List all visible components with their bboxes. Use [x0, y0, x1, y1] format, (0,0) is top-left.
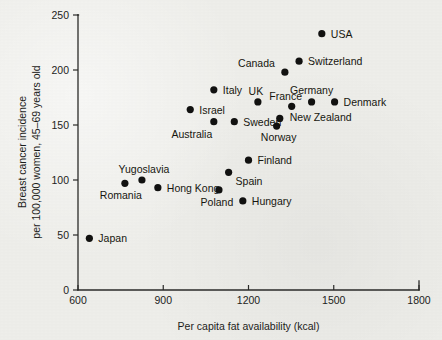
point-label-uk: UK [249, 85, 264, 97]
plot-canvas: 050100150200250600900120015001800 JapanR… [0, 0, 442, 340]
point-marker [318, 30, 325, 37]
data-point: Hungary [239, 195, 292, 207]
data-point: Spain [225, 169, 263, 188]
point-marker [308, 98, 315, 105]
point-label-poland: Poland [201, 196, 234, 208]
data-points-layer: JapanRomaniaYugoslaviaHong KongPolandHun… [86, 28, 387, 245]
data-point: Switzerland [295, 55, 362, 67]
point-label-usa: USA [331, 28, 353, 40]
point-marker [245, 157, 252, 164]
data-point: Hong Kong [154, 182, 219, 194]
data-point: Japan [86, 232, 127, 244]
data-point: Finland [245, 154, 292, 166]
y-tick-label: 100 [51, 174, 69, 186]
point-marker [254, 98, 261, 105]
point-marker [210, 118, 217, 125]
point-marker [187, 106, 194, 113]
data-point: Romania [100, 180, 142, 202]
point-label-italy: Italy [223, 84, 243, 96]
point-marker [154, 184, 161, 191]
point-marker [295, 58, 302, 65]
y-axis-title-line2: per 100,000 women, 45–69 years old [30, 65, 42, 239]
point-marker [288, 103, 295, 110]
point-marker [331, 98, 338, 105]
data-point: Italy [210, 84, 243, 96]
point-label-germany: Germany [290, 84, 334, 96]
x-tick-label: 600 [69, 294, 87, 306]
data-point: Israel [187, 104, 225, 116]
point-marker [281, 69, 288, 76]
point-label-denmark: Denmark [344, 96, 387, 108]
point-marker [86, 235, 93, 242]
point-marker [225, 169, 232, 176]
point-marker [210, 86, 217, 93]
point-label-yugoslavia: Yugoslavia [119, 163, 170, 175]
point-label-norway: Norway [261, 131, 297, 143]
x-axis-title: Per capita fat availability (kcal) [178, 320, 320, 332]
y-tick-label: 50 [57, 229, 69, 241]
data-point: UK [249, 85, 264, 106]
point-marker [121, 180, 128, 187]
y-axis-title-line1: Breast cancer incidence [16, 96, 28, 208]
data-point: USA [318, 28, 352, 40]
data-point: Denmark [331, 96, 387, 108]
point-marker [273, 123, 280, 130]
point-label-switzerland: Switzerland [308, 55, 362, 67]
y-tick-label: 200 [51, 64, 69, 76]
scatter-plot-figure: 050100150200250600900120015001800 JapanR… [0, 0, 442, 340]
x-tick-label: 1200 [237, 294, 261, 306]
point-label-japan: Japan [98, 232, 127, 244]
x-tick-label: 1800 [407, 294, 431, 306]
data-point: New Zealand [276, 111, 352, 123]
point-marker [138, 176, 145, 183]
y-tick-label: 150 [51, 119, 69, 131]
point-marker [231, 118, 238, 125]
point-marker [276, 115, 283, 122]
data-point: Australia [171, 118, 217, 140]
axes-layer: 050100150200250600900120015001800 [51, 9, 430, 306]
point-label-new-zealand: New Zealand [290, 111, 352, 123]
point-label-canada: Canada [238, 57, 275, 69]
point-marker [239, 197, 246, 204]
x-tick-label: 1500 [322, 294, 346, 306]
point-label-hong-kong: Hong Kong [167, 182, 220, 194]
data-point: Canada [238, 57, 288, 76]
x-tick-label: 900 [154, 294, 172, 306]
point-label-spain: Spain [236, 175, 263, 187]
point-label-australia: Australia [171, 128, 212, 140]
point-label-finland: Finland [258, 154, 293, 166]
point-label-hungary: Hungary [252, 195, 292, 207]
y-tick-label: 250 [51, 9, 69, 21]
point-label-israel: Israel [199, 104, 225, 116]
point-label-romania: Romania [100, 189, 142, 201]
point-marker [215, 186, 222, 193]
